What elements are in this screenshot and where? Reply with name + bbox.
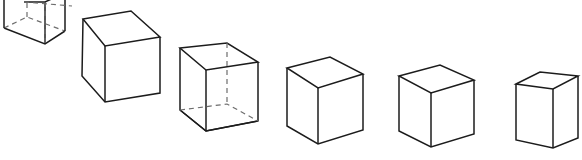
cube-2-right-face [105,37,160,102]
cube-5-solid-lower-angle [399,65,474,147]
cube-6-solid-near-eye-level [516,72,578,148]
cube-4-solid-low-angle [287,57,363,144]
cube-illustration-canvas [0,0,582,160]
cube-6-left-face [516,84,553,148]
cube-progression-figure: Cube viewpoint progression A horizontal … [0,0,582,160]
